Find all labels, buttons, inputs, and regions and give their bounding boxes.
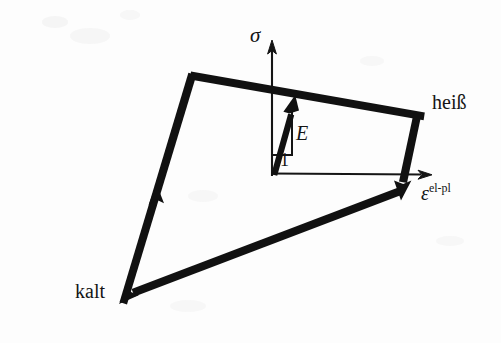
loop-segment-lower-right-to-cold	[132, 187, 403, 297]
figure-canvas: σ heiß kalt E 1 εel-pl	[0, 0, 501, 343]
annotation-label-modulus: E	[296, 123, 308, 143]
annotation-label-cold: kalt	[75, 281, 105, 301]
annotation-label-unit-run: 1	[280, 151, 289, 169]
loop-segment-upper-left-to-hot	[190, 72, 425, 121]
horizontal-axis-line	[271, 174, 421, 175]
axis-label-strain: εel-pl	[421, 182, 451, 203]
axis-label-sigma: σ	[250, 25, 260, 46]
loop-segment-hot-to-lower-right	[399, 113, 421, 183]
axis-label-strain-superscript: el-pl	[429, 181, 451, 195]
annotation-label-hot: heiß	[432, 92, 466, 112]
axis-label-strain-base: ε	[421, 182, 429, 204]
